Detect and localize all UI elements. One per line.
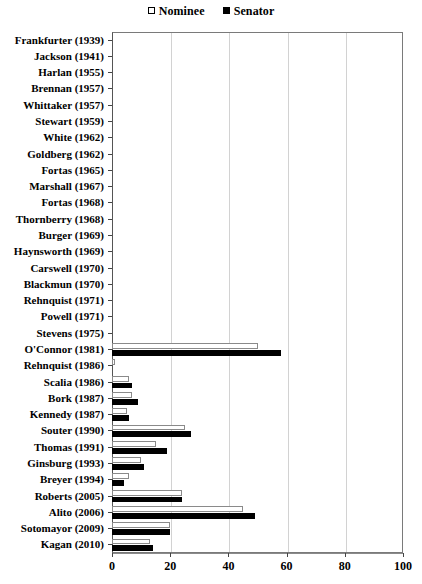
- bar-pair: [112, 81, 422, 97]
- category-label: Thomas (1991): [0, 442, 108, 453]
- category-label: Souter (1990): [0, 425, 108, 436]
- bar-nominee: [112, 473, 129, 479]
- bar-pair: [112, 211, 422, 227]
- bar-row: Roberts (2005): [0, 488, 422, 504]
- bar-pair: [112, 537, 422, 553]
- bar-row: Bork (1987): [0, 390, 422, 406]
- bar-nominee: [112, 343, 258, 349]
- bar-row: Haynsworth (1969): [0, 244, 422, 260]
- legend-entry-senator: Senator: [223, 4, 275, 19]
- category-label: Brennan (1957): [0, 83, 108, 94]
- bar-row: Stevens (1975): [0, 325, 422, 341]
- x-tick-mark: [170, 553, 171, 557]
- x-tick-label: 40: [222, 559, 234, 574]
- bar-pair: [112, 113, 422, 129]
- legend-entry-nominee: Nominee: [148, 4, 205, 19]
- bar-row: Kennedy (1987): [0, 406, 422, 422]
- bar-row: Jackson (1941): [0, 48, 422, 64]
- bar-senator: [112, 545, 153, 551]
- bar-pair: [112, 455, 422, 471]
- bar-row: Alito (2006): [0, 504, 422, 520]
- bar-pair: [112, 309, 422, 325]
- bar-row: Sotomayor (2009): [0, 520, 422, 536]
- category-label: Fortas (1968): [0, 197, 108, 208]
- category-label: Goldberg (1962): [0, 149, 108, 160]
- bar-senator: [112, 399, 138, 405]
- bar-row: Powell (1971): [0, 309, 422, 325]
- category-label: Haynsworth (1969): [0, 246, 108, 257]
- bar-pair: [112, 504, 422, 520]
- x-tick-label: 100: [394, 559, 412, 574]
- category-label: Alito (2006): [0, 507, 108, 518]
- bar-pair: [112, 32, 422, 48]
- bar-nominee: [112, 359, 115, 365]
- category-label: Jackson (1941): [0, 51, 108, 62]
- category-label: Bork (1987): [0, 393, 108, 404]
- x-tick-mark: [228, 553, 229, 557]
- category-label: Stevens (1975): [0, 328, 108, 339]
- bar-row: O'Connor (1981): [0, 341, 422, 357]
- bar-senator: [112, 415, 129, 421]
- bar-pair: [112, 227, 422, 243]
- bar-row: Harlan (1955): [0, 65, 422, 81]
- bar-row: Kagan (2010): [0, 537, 422, 553]
- x-tick-label: 0: [109, 559, 115, 574]
- chart-legend: Nominee Senator: [0, 4, 422, 19]
- category-label: Powell (1971): [0, 311, 108, 322]
- bar-row: Stewart (1959): [0, 113, 422, 129]
- bar-rows: Frankfurter (1939)Jackson (1941)Harlan (…: [0, 32, 422, 553]
- x-tick-mark: [345, 553, 346, 557]
- bar-row: White (1962): [0, 130, 422, 146]
- bar-nominee: [112, 408, 127, 414]
- category-label: Carswell (1970): [0, 263, 108, 274]
- bar-pair: [112, 260, 422, 276]
- category-label: White (1962): [0, 132, 108, 143]
- bar-row: Breyer (1994): [0, 472, 422, 488]
- bar-senator: [112, 431, 191, 437]
- bar-row: Ginsburg (1993): [0, 455, 422, 471]
- category-label: Stewart (1959): [0, 116, 108, 127]
- bar-pair: [112, 97, 422, 113]
- bar-pair: [112, 488, 422, 504]
- category-label: Fortas (1965): [0, 165, 108, 176]
- category-label: Whittaker (1957): [0, 100, 108, 111]
- bar-pair: [112, 520, 422, 536]
- bar-pair: [112, 325, 422, 341]
- bar-pair: [112, 65, 422, 81]
- bar-pair: [112, 179, 422, 195]
- bar-row: Rehnquist (1971): [0, 293, 422, 309]
- bar-senator: [112, 448, 167, 454]
- category-label: Roberts (2005): [0, 491, 108, 502]
- bar-row: Carswell (1970): [0, 260, 422, 276]
- bar-senator: [112, 529, 170, 535]
- bar-nominee: [112, 506, 243, 512]
- category-label: Marshall (1967): [0, 181, 108, 192]
- category-label: Rehnquist (1986): [0, 360, 108, 371]
- horizontal-bar-chart: Nominee Senator Frankfurter (1939)Jackso…: [0, 0, 422, 584]
- x-axis-ticks: 020406080100: [0, 553, 422, 581]
- bar-pair: [112, 293, 422, 309]
- bar-pair: [112, 439, 422, 455]
- category-label: Thornberry (1968): [0, 214, 108, 225]
- bar-row: Whittaker (1957): [0, 97, 422, 113]
- bar-row: Scalia (1986): [0, 374, 422, 390]
- bar-pair: [112, 244, 422, 260]
- bar-nominee: [112, 490, 182, 496]
- category-label: Harlan (1955): [0, 67, 108, 78]
- bar-pair: [112, 472, 422, 488]
- x-tick-mark: [287, 553, 288, 557]
- category-label: Rehnquist (1971): [0, 295, 108, 306]
- category-label: Breyer (1994): [0, 474, 108, 485]
- bar-nominee: [112, 457, 141, 463]
- bar-senator: [112, 480, 124, 486]
- bar-pair: [112, 195, 422, 211]
- bar-pair: [112, 423, 422, 439]
- category-label: Blackmun (1970): [0, 279, 108, 290]
- bar-pair: [112, 358, 422, 374]
- bar-row: Thornberry (1968): [0, 211, 422, 227]
- category-label: O'Connor (1981): [0, 344, 108, 355]
- bar-pair: [112, 390, 422, 406]
- x-tick-label: 80: [339, 559, 351, 574]
- bar-row: Blackmun (1970): [0, 276, 422, 292]
- x-tick-label: 60: [281, 559, 293, 574]
